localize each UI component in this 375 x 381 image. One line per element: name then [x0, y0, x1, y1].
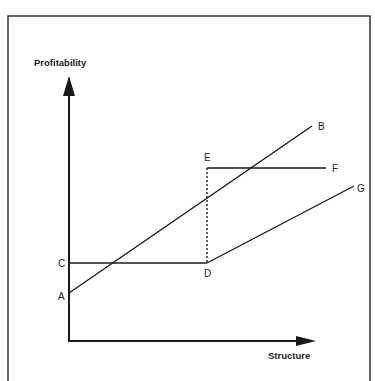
- x-axis-arrow-icon: [296, 336, 316, 346]
- point-label-C: C: [58, 258, 65, 269]
- line-AB: [69, 126, 312, 293]
- y-axis-label: Profitability: [34, 57, 87, 68]
- point-label-E: E: [204, 152, 211, 163]
- point-label-D: D: [204, 268, 211, 279]
- line-DG: [207, 186, 354, 263]
- y-axis-arrow-icon: [63, 76, 75, 96]
- point-label-G: G: [357, 183, 365, 194]
- point-label-F: F: [332, 163, 338, 174]
- point-label-A: A: [58, 291, 65, 302]
- figure-frame: [8, 16, 370, 381]
- profitability-structure-diagram: Profitability Structure A B C D E F G: [0, 0, 375, 381]
- point-label-B: B: [318, 121, 325, 132]
- curves: [69, 126, 354, 293]
- x-axis-label: Structure: [268, 350, 310, 361]
